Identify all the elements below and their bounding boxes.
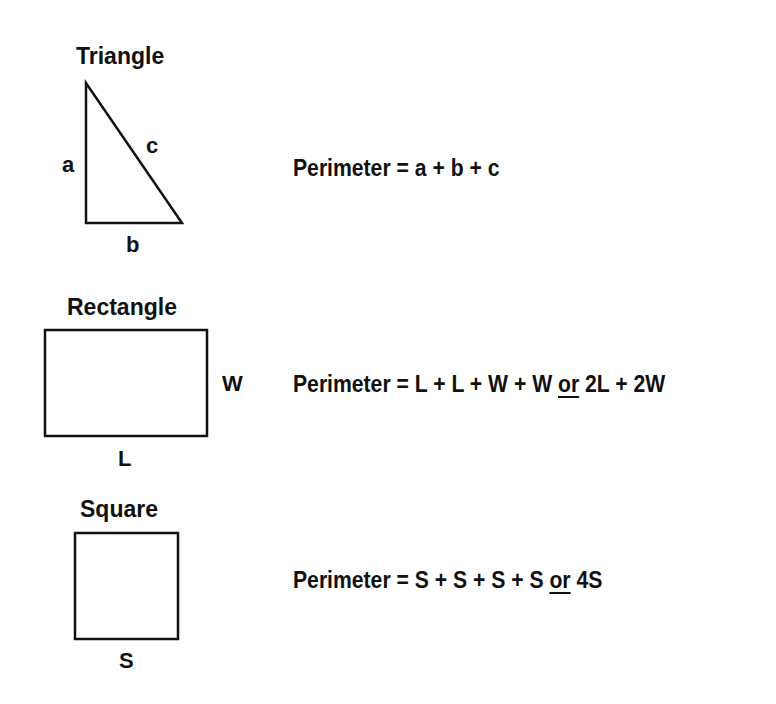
rectangle-side-l: L xyxy=(118,448,131,470)
rectangle-title: Rectangle xyxy=(67,296,177,319)
square-title: Square xyxy=(80,498,158,521)
formula-main: Perimeter = S + S + S + S xyxy=(293,567,549,593)
or-underlined: or xyxy=(558,371,579,397)
formula-alt: 4S xyxy=(571,567,603,593)
triangle-side-c: c xyxy=(146,135,158,157)
triangle-title: Triangle xyxy=(76,45,164,68)
triangle-side-b: b xyxy=(126,234,139,256)
rectangle-shape xyxy=(45,330,207,436)
formula-main: Perimeter = L + L + W + W xyxy=(293,371,558,397)
triangle-shape xyxy=(86,83,182,223)
triangle-side-a: a xyxy=(62,154,74,176)
rectangle-formula: Perimeter = L + L + W + W or 2L + 2W xyxy=(293,373,665,396)
square-shape xyxy=(75,533,178,639)
shapes-drawing xyxy=(0,0,776,704)
formula-alt: 2L + 2W xyxy=(579,371,665,397)
square-formula: Perimeter = S + S + S + S or 4S xyxy=(293,569,602,592)
triangle-formula: Perimeter = a + b + c xyxy=(293,157,499,180)
rectangle-side-w: W xyxy=(222,373,243,395)
square-side-s: S xyxy=(119,650,134,672)
or-underlined: or xyxy=(549,567,570,593)
